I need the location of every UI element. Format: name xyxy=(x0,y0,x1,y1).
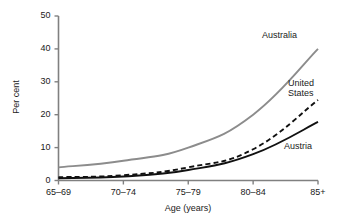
y-tick-label: 40 xyxy=(25,43,51,53)
x-tick-label: 80–84 xyxy=(223,187,283,197)
series-label-united-states: United States xyxy=(288,78,314,98)
x-tick-label: 65–69 xyxy=(29,187,89,197)
y-tick-label: 0 xyxy=(25,175,51,185)
x-tick-label: 75–79 xyxy=(158,187,218,197)
x-tick-label: 70–74 xyxy=(93,187,153,197)
x-axis-title: Age (years) xyxy=(58,203,318,213)
series-label-australia: Australia xyxy=(262,30,297,40)
y-tick-label: 50 xyxy=(25,10,51,20)
x-tick-label: 85+ xyxy=(288,187,345,197)
y-tick-label: 10 xyxy=(25,142,51,152)
y-tick-label: 30 xyxy=(25,76,51,86)
chart-figure: Per cent Age (years) 01020304050 65–6970… xyxy=(0,0,345,221)
y-tick-label: 20 xyxy=(25,109,51,119)
y-axis-title: Per cent xyxy=(11,67,21,127)
series-line-austria xyxy=(59,122,319,178)
series-line-australia xyxy=(59,49,319,167)
series-label-austria: Austria xyxy=(284,141,312,151)
chart-series-group xyxy=(59,49,319,178)
series-line-united-states xyxy=(59,100,319,177)
